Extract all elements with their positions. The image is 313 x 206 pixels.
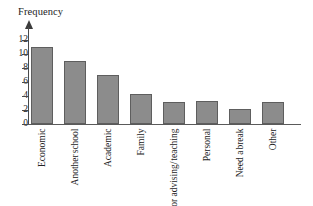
y-tick-mark: [22, 124, 28, 125]
x-axis-label-line: Need a: [235, 150, 246, 178]
bar: [130, 94, 152, 124]
y-tick-mark: [22, 96, 28, 97]
x-axis-line: [22, 124, 301, 125]
x-axis-label-line: school: [70, 128, 81, 154]
x-axis-label-line: Another: [70, 154, 81, 186]
bar: [163, 102, 185, 124]
y-tick-mark: [22, 40, 28, 41]
x-axis-label-line: Academic: [103, 128, 114, 168]
y-axis-line: [28, 27, 29, 125]
bar: [97, 75, 119, 124]
x-axis-label-line: teaching: [169, 128, 180, 161]
x-axis-label-line: Poor advising/: [169, 161, 180, 206]
x-axis-label-line: Personal: [202, 128, 213, 162]
bar: [31, 47, 53, 124]
x-axis-label-line: Family: [136, 128, 147, 156]
y-tick-mark: [22, 110, 28, 111]
x-axis-label-line: Economic: [37, 128, 48, 168]
bar-chart: Frequency 121086420 EconomicAnotherschoo…: [0, 0, 313, 206]
bar: [229, 109, 251, 124]
y-tick-mark: [22, 68, 28, 69]
plot-area: 121086420 EconomicAnotherschoolAcademicF…: [0, 0, 313, 206]
bar: [262, 102, 284, 124]
y-tick-mark: [22, 82, 28, 83]
x-axis-label-line: break: [235, 128, 246, 150]
bar: [196, 101, 218, 124]
bar: [64, 61, 86, 124]
y-tick-mark: [22, 54, 28, 55]
x-axis-label-line: Other: [268, 128, 279, 151]
